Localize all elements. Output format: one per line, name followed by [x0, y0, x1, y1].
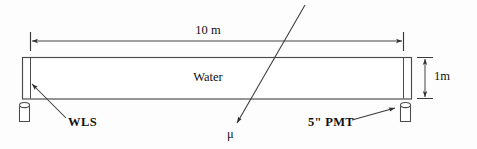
muon-label: μ [227, 128, 234, 141]
tank-medium-label: Water [178, 71, 238, 84]
left-cylinder-top-ellipse [20, 102, 30, 107]
tank-height-dimension [417, 58, 433, 99]
right-pmt-cylinder-icon [401, 102, 411, 121]
left-pmt-cylinder-icon [20, 102, 30, 121]
tank-height-label: 1m [434, 70, 450, 83]
tank-length-label: 10 m [178, 24, 238, 37]
detector-schematic-figure: 10 m Water 1m WLS 5" PMT μ [0, 0, 477, 149]
right-cylinder-top-ellipse [401, 102, 411, 107]
pmt-label: 5" PMT [308, 116, 354, 129]
pmt-leader-arrow [352, 108, 395, 120]
wls-label: WLS [68, 116, 97, 129]
